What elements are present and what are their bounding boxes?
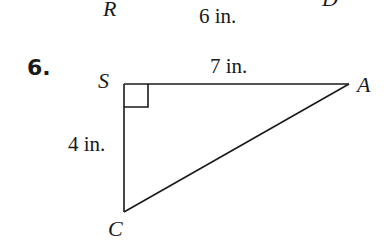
right-angle-marker — [124, 84, 148, 107]
triangle-sca — [124, 84, 349, 212]
vertex-label-a: A — [357, 74, 370, 96]
vertex-label-c: C — [108, 218, 123, 240]
vertex-label-s: S — [98, 70, 109, 92]
triangle-figure — [0, 0, 386, 241]
side-label-sa: 7 in. — [210, 56, 247, 77]
side-ca — [124, 84, 349, 212]
side-label-sc: 4 in. — [68, 134, 105, 155]
